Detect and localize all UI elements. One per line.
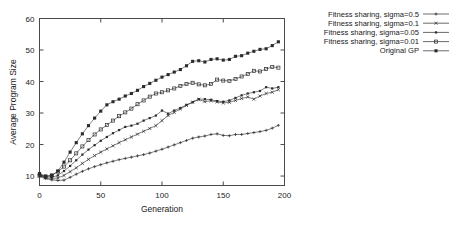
x-tick-label: 0: [37, 191, 42, 200]
y-tick-label: 10: [26, 172, 35, 181]
y-tick-label: 40: [26, 78, 35, 87]
y-tick-label: 20: [26, 141, 35, 150]
x-axis-title: Generation: [141, 204, 183, 214]
y-axis-title: Average Program Size: [8, 59, 18, 145]
chart-screenshot: 102030405060 050100150200 Average Progra…: [0, 0, 455, 234]
legend-label: Fitness sharing, sigma=0.05: [324, 28, 419, 37]
legend-label: Fitness sharing, sigma=0.1: [328, 19, 419, 28]
legend-label: Fitness sharing, sigma=0.5: [328, 10, 419, 19]
y-tick-label: 60: [26, 15, 35, 24]
legend-label: Original GP: [380, 46, 419, 55]
y-tick-label: 50: [26, 46, 35, 55]
x-tick-label: 50: [96, 191, 105, 200]
x-tick-label: 200: [278, 191, 292, 200]
line-chart-figure: 102030405060 050100150200 Average Progra…: [0, 0, 455, 234]
legend-label: Fitness sharing, sigma=0.01: [324, 37, 419, 46]
y-tick-label: 30: [26, 109, 35, 118]
x-tick-label: 150: [217, 191, 231, 200]
x-tick-label: 100: [155, 191, 169, 200]
